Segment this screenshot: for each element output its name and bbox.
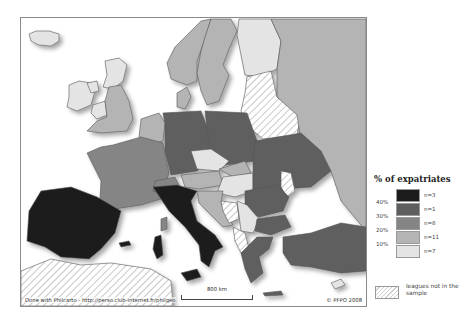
legend-swatch-class-5 [396,245,420,258]
country-wales [91,101,107,119]
island-corsica [161,217,167,231]
country-cyprus [331,279,345,289]
map-frame: 800 km Done with Philcarto - http://pers… [20,17,367,307]
country-austria [181,171,223,189]
legend-count-class-3: n=8 [424,220,436,226]
island-balearic [119,241,131,247]
legend-count-class-4: n=11 [424,234,439,240]
legend-swatch-class-1 [396,189,420,202]
country-denmark [177,87,191,109]
legend-swatch-class-4 [396,231,420,244]
legend-tick-10: 10% [376,241,388,247]
country-turkey [283,223,366,273]
legend-count-class-1: n=3 [424,192,436,198]
country-bulgaria [255,215,291,235]
country-scotland [103,58,127,89]
legend: % of expatriates n=3 n=1 n=8 n=11 n=7 40… [374,174,464,269]
legend-count-class-2: n=1 [424,206,436,212]
island-sicily [181,269,201,281]
legend-body: n=3 n=1 n=8 n=11 n=7 40% 30% 20% 10% [374,189,464,269]
legend-tick-40: 40% [376,199,388,205]
country-finland [237,19,281,77]
copyright-text: © PFPO 2008 [326,297,362,303]
legend-tick-20: 20% [376,227,388,233]
island-sardinia [153,235,163,259]
credit-text: Done with Philcarto - http://perso.club-… [25,297,176,303]
europe-choropleth-map [21,18,366,306]
legend-title: % of expatriates [374,174,464,184]
island-crete [263,291,283,296]
legend-count-class-5: n=7 [424,248,436,254]
legend-swatch-not-in-sample [375,286,399,299]
scale-bar: 800 km [181,295,253,300]
country-iceland [29,31,59,46]
legend-swatch-class-2 [396,203,420,216]
legend-swatch-class-3 [396,217,420,230]
legend-label-not-in-sample: leagues not in the sample [406,283,461,297]
legend-tick-30: 30% [376,213,388,219]
scale-label: 800 km [182,286,252,292]
